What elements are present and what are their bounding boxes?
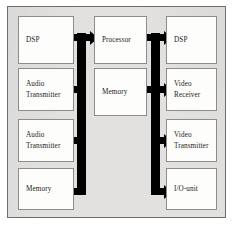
right-bus-row1-shaft-left: [146, 34, 154, 41]
node-label: Memory: [26, 184, 51, 195]
node-right-dsp: DSP: [166, 16, 217, 64]
diagram-frame: DSP Audio Transmitter Audio Transmitter …: [7, 6, 226, 218]
node-label: Processor: [102, 35, 131, 46]
node-left-audio-transmitter-1: Audio Transmitter: [18, 68, 74, 111]
right-bus-trunk: [151, 33, 160, 195]
node-left-dsp: DSP: [18, 16, 74, 64]
node-left-audio-transmitter-2: Audio Transmitter: [18, 119, 74, 162]
right-bus-row2-shaft-left: [146, 86, 154, 93]
node-video-receiver: Video Receiver: [166, 68, 217, 111]
node-center-memory: Memory: [94, 68, 147, 116]
node-label: DSP: [26, 35, 40, 46]
node-label: I/O-unit: [174, 184, 198, 195]
node-label: Video Transmitter: [174, 130, 208, 152]
node-label: Audio Transmitter: [26, 130, 60, 152]
node-label: Memory: [102, 87, 127, 98]
node-left-memory: Memory: [18, 168, 74, 210]
block-diagram: DSP Audio Transmitter Audio Transmitter …: [0, 0, 234, 227]
node-label: Video Receiver: [174, 79, 200, 101]
node-processor: Processor: [94, 16, 147, 64]
node-label: Audio Transmitter: [26, 79, 60, 101]
node-video-transmitter: Video Transmitter: [166, 119, 217, 162]
node-io-unit: I/O-unit: [166, 168, 217, 210]
node-label: DSP: [174, 35, 188, 46]
